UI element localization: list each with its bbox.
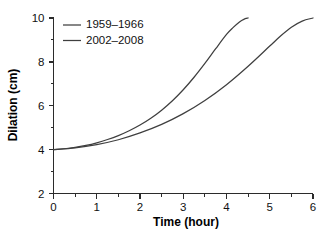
- y-tick-label: 4: [38, 144, 45, 156]
- y-tick-label: 8: [38, 56, 44, 68]
- x-axis-title: Time (hour): [153, 215, 219, 229]
- x-tick-label: 6: [310, 201, 316, 213]
- y-tick-label: 10: [32, 12, 45, 24]
- x-tick-label: 0: [50, 201, 56, 213]
- chart-canvas: 246810 Dilation (cm) 0123456 Time (hour)…: [0, 0, 332, 238]
- y-tick-label: 2: [38, 188, 44, 200]
- x-axis: 0123456 Time (hour): [50, 194, 316, 230]
- legend-item-2: 2002–2008: [63, 34, 144, 46]
- chart-legend: 1959–19662002–2008: [63, 18, 144, 46]
- x-tick-label: 4: [223, 201, 230, 213]
- y-axis-tick-labels: 246810: [32, 12, 45, 200]
- dilation-vs-time-figure: 246810 Dilation (cm) 0123456 Time (hour)…: [0, 0, 332, 238]
- legend-item-1: 1959–1966: [63, 18, 144, 30]
- x-axis-tick-labels: 0123456: [50, 201, 316, 213]
- series-line-1: [54, 18, 249, 150]
- x-tick-label: 5: [267, 201, 273, 213]
- y-axis-major-ticks: [49, 18, 54, 194]
- y-tick-label: 6: [38, 100, 44, 112]
- x-tick-label: 1: [94, 201, 100, 213]
- legend-label-2: 2002–2008: [86, 34, 144, 46]
- y-axis: 246810 Dilation (cm): [6, 12, 54, 200]
- x-tick-label: 3: [180, 201, 186, 213]
- y-axis-title: Dilation (cm): [6, 69, 20, 142]
- legend-label-1: 1959–1966: [86, 18, 144, 30]
- x-tick-label: 2: [137, 201, 143, 213]
- x-axis-major-ticks: [54, 194, 314, 199]
